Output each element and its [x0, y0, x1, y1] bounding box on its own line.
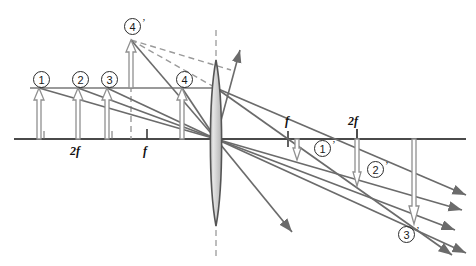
circled-number-3-prime: 3	[398, 226, 415, 243]
image-arrow-4prime	[126, 40, 136, 88]
prime-mark-2: ’	[385, 161, 389, 169]
circled-number-4: 4	[176, 71, 193, 88]
axis-label-right-f: f	[285, 114, 289, 129]
axis-label-left-2f: 2f	[70, 144, 80, 159]
image-tag-1prime: 1 ’	[314, 140, 336, 157]
image-tag-4prime: 4 ’	[124, 18, 146, 35]
object-tag-4: 4	[176, 71, 193, 88]
circled-number-1: 1	[33, 71, 50, 88]
circled-number-2-prime: 2	[367, 161, 384, 178]
prime-mark-4: ’	[142, 18, 146, 26]
image-arrow-3prime	[409, 139, 419, 224]
focal-rays-refracted	[216, 88, 466, 230]
object-tag-3: 3	[101, 71, 118, 88]
converging-lens	[210, 60, 221, 226]
object-arrow-1	[34, 88, 44, 139]
object-tag-2: 2	[72, 71, 89, 88]
circled-number-4-prime: 4	[124, 18, 141, 35]
image-tag-2prime: 2 ’	[367, 161, 389, 178]
lens-body	[210, 60, 221, 226]
image-tag-3prime: 3 ’	[398, 226, 420, 243]
focal-ray-segment-b	[288, 139, 452, 255]
circled-number-1-prime: 1	[314, 140, 331, 157]
circled-number-3: 3	[101, 71, 118, 88]
focal-ray-out-1	[216, 88, 466, 195]
object-arrow-3	[102, 88, 112, 139]
chief-ray-3-out	[216, 139, 466, 253]
prime-mark-3: ’	[416, 226, 420, 234]
chief-rays-refracted	[216, 139, 466, 253]
optical-axis-group	[14, 129, 466, 147]
axis-label-right-2f: 2f	[348, 114, 358, 129]
prime-mark-1: ’	[332, 140, 336, 148]
object-arrow-4	[177, 88, 187, 139]
image-arrows	[293, 139, 419, 224]
chief-ray-1	[39, 88, 216, 139]
chief-rays-incident	[39, 88, 216, 139]
axis-label-left-f: f	[143, 144, 147, 159]
object-arrow-2	[73, 88, 83, 139]
circled-number-2: 2	[72, 71, 89, 88]
image-arrow-1prime	[293, 139, 301, 160]
object-drop-lines	[39, 46, 182, 139]
ray-diagram-figure: 2f f f 2f 1 2 3 4 4 ’ 1 ’ 2 ’ 3 ’	[0, 0, 476, 266]
virtual-ray-4-parallel	[131, 40, 216, 88]
object-tag-1: 1	[33, 71, 50, 88]
